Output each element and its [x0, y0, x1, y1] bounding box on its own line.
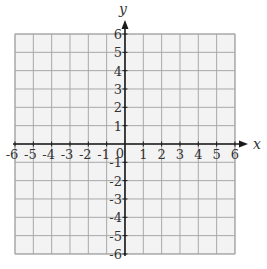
y-tick-label: -6 [109, 247, 122, 262]
x-tick-label: 4 [194, 147, 202, 162]
y-tick-label: 5 [114, 45, 122, 60]
y-tick-label: -4 [109, 210, 122, 225]
y-tick-label: -5 [109, 229, 122, 244]
y-tick-label: 2 [114, 100, 122, 115]
y-tick-label: 3 [114, 82, 122, 97]
x-tick-label: -4 [42, 147, 55, 162]
x-tick-label: -3 [61, 147, 74, 162]
x-tick-label: 5 [212, 147, 220, 162]
y-axis-arrow-icon [121, 20, 128, 29]
y-tick-label: -3 [109, 192, 122, 207]
x-tick-label: -2 [79, 147, 92, 162]
y-axis-label: y [118, 1, 128, 17]
x-axis-label: x [253, 136, 261, 152]
x-tick-label: -1 [97, 147, 110, 162]
y-tick-label: 4 [114, 64, 122, 79]
y-tick-label: 6 [114, 27, 122, 42]
y-tick-label: -2 [109, 174, 122, 189]
x-tick-label: 3 [176, 147, 184, 162]
x-tick-label: -5 [24, 147, 37, 162]
x-axis-arrow-icon [239, 140, 248, 147]
coordinate-plane: -6-5-4-3-2-1123456 -6-5-4-3-2-1123456 0 … [0, 0, 267, 269]
origin-label: 0 [116, 146, 124, 161]
x-tick-label: 6 [231, 147, 239, 162]
y-tick-label: 1 [114, 119, 122, 134]
x-tick-label: 1 [139, 147, 147, 162]
x-tick-label: 2 [157, 147, 165, 162]
x-tick-label: -6 [6, 147, 19, 162]
